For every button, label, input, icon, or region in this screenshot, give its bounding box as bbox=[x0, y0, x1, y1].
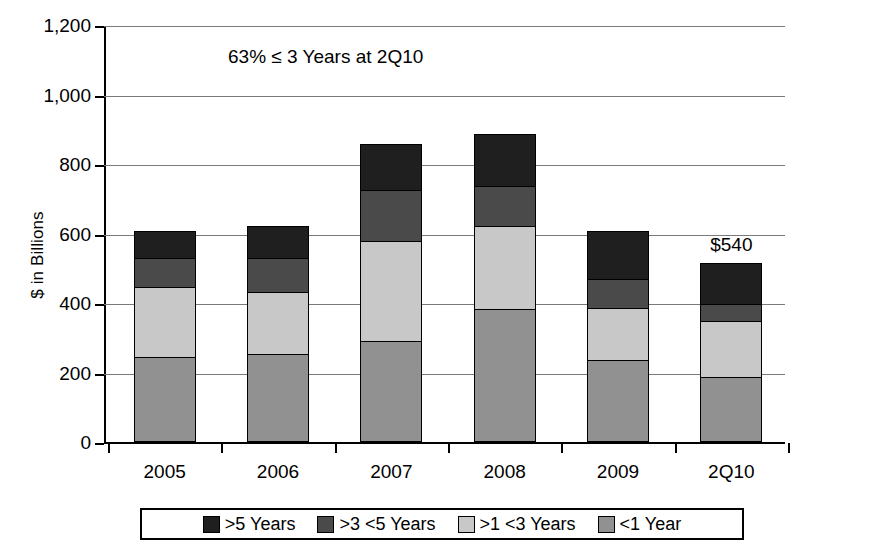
bar-segment bbox=[474, 134, 536, 187]
bar-segment bbox=[587, 279, 649, 309]
y-tick-label: 1,200 bbox=[43, 15, 91, 37]
x-tick-mark bbox=[561, 443, 563, 453]
x-axis-label-2008: 2008 bbox=[484, 461, 526, 483]
bar-segment bbox=[134, 231, 196, 258]
legend-swatch bbox=[203, 516, 220, 533]
stacked-bar-chart: $ in Billions 63% ≤ 3 Years at 2Q10 0200… bbox=[0, 0, 875, 551]
bar-2007 bbox=[360, 144, 422, 442]
y-tick-mark bbox=[95, 235, 104, 237]
y-tick-mark bbox=[95, 443, 104, 445]
bar-segment bbox=[700, 304, 762, 322]
bar-segment bbox=[247, 258, 309, 293]
bar-segment bbox=[247, 354, 309, 442]
y-tick-label: 400 bbox=[59, 293, 91, 315]
y-tick-mark bbox=[95, 26, 104, 28]
gridline bbox=[104, 304, 785, 305]
chart-legend: >5 Years>3 <5 Years>1 <3 Years<1 Year bbox=[140, 508, 744, 540]
y-tick-label: 200 bbox=[59, 363, 91, 385]
bar-segment bbox=[700, 263, 762, 305]
y-axis-title: $ in Billions bbox=[28, 165, 48, 345]
legend-swatch bbox=[458, 516, 475, 533]
legend-item: <1 Year bbox=[598, 514, 682, 535]
y-tick-mark bbox=[95, 165, 104, 167]
bar-2009 bbox=[587, 231, 649, 442]
bar-segment bbox=[360, 190, 422, 242]
bar-segment bbox=[134, 258, 196, 289]
y-tick-label: 600 bbox=[59, 224, 91, 246]
y-tick-label: 800 bbox=[59, 154, 91, 176]
bar-2005 bbox=[134, 231, 196, 442]
bar-segment bbox=[247, 226, 309, 259]
legend-label: <1 Year bbox=[620, 514, 682, 535]
legend-label: >1 <3 Years bbox=[480, 514, 576, 535]
y-tick-mark bbox=[95, 96, 104, 98]
x-tick-mark bbox=[448, 443, 450, 453]
bar-segment bbox=[700, 321, 762, 377]
bar-segment bbox=[587, 360, 649, 442]
bar-segment bbox=[247, 292, 309, 356]
bar-segment bbox=[474, 186, 536, 227]
gridline bbox=[104, 235, 785, 236]
gridline bbox=[104, 165, 785, 166]
bar-segment bbox=[587, 231, 649, 280]
bar-segment bbox=[360, 241, 422, 342]
bar-2008 bbox=[474, 134, 536, 442]
x-tick-mark bbox=[335, 443, 337, 453]
bar-segment bbox=[587, 308, 649, 361]
bar-value-label: $540 bbox=[710, 234, 752, 256]
gridline bbox=[104, 374, 785, 375]
plot-area: 02004006008001,0001,200 $540 20052006200… bbox=[104, 26, 784, 443]
x-axis-label-2006: 2006 bbox=[257, 461, 299, 483]
y-tick-mark bbox=[95, 374, 104, 376]
legend-swatch bbox=[317, 516, 334, 533]
bar-segment bbox=[474, 226, 536, 310]
gridline bbox=[104, 26, 785, 27]
bar-segment bbox=[474, 309, 536, 442]
bar-segment bbox=[134, 357, 196, 442]
x-tick-mark bbox=[108, 443, 110, 453]
x-axis-label-2005: 2005 bbox=[144, 461, 186, 483]
legend-item: >5 Years bbox=[203, 514, 296, 535]
legend-label: >3 <5 Years bbox=[339, 514, 435, 535]
x-axis-label-2007: 2007 bbox=[370, 461, 412, 483]
x-axis-line bbox=[104, 442, 785, 444]
x-tick-mark bbox=[221, 443, 223, 453]
x-tick-mark bbox=[675, 443, 677, 453]
x-axis-label-2009: 2009 bbox=[597, 461, 639, 483]
bar-segment bbox=[700, 377, 762, 442]
bar-segment bbox=[360, 341, 422, 442]
x-axis-label-2Q10: 2Q10 bbox=[708, 461, 754, 483]
legend-item: >3 <5 Years bbox=[317, 514, 435, 535]
gridline bbox=[104, 96, 785, 97]
legend-label: >5 Years bbox=[225, 514, 296, 535]
legend-item: >1 <3 Years bbox=[458, 514, 576, 535]
y-tick-label: 1,000 bbox=[43, 85, 91, 107]
bar-segment bbox=[134, 287, 196, 358]
y-tick-label: 0 bbox=[80, 432, 91, 454]
bar-2006 bbox=[247, 226, 309, 442]
x-tick-mark bbox=[788, 443, 790, 453]
legend-swatch bbox=[598, 516, 615, 533]
bar-segment bbox=[360, 144, 422, 190]
bar-2Q10 bbox=[700, 263, 762, 442]
y-tick-mark bbox=[95, 304, 104, 306]
